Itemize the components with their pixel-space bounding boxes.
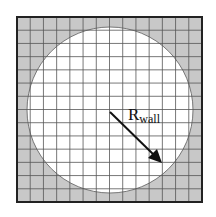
wall-circle (27, 27, 193, 193)
diagram-canvas: Rwall (0, 0, 216, 217)
